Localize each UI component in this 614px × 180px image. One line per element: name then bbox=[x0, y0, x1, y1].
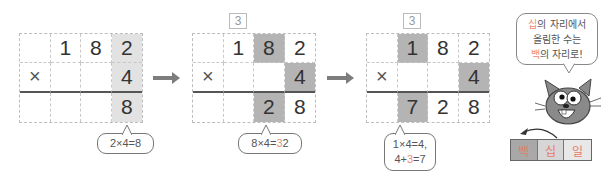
cell bbox=[428, 63, 459, 92]
cell: 1 bbox=[51, 34, 82, 63]
cell bbox=[81, 93, 112, 122]
cell-highlighted: 1 bbox=[398, 34, 429, 63]
multiply-sign: × bbox=[20, 63, 51, 92]
bubble-tail-icon bbox=[122, 125, 132, 135]
place-value-tens: 십 bbox=[538, 140, 565, 160]
speech-line-1: 십의 자리에서 bbox=[517, 17, 597, 32]
speech-tail-icon bbox=[563, 63, 575, 74]
cell-highlighted: 4 bbox=[285, 63, 316, 92]
carry-box: 3 bbox=[403, 13, 421, 29]
step1-explanation-bubble: 2×4=8 bbox=[97, 133, 154, 154]
cell bbox=[51, 63, 82, 92]
cell: 2 bbox=[459, 34, 490, 63]
cat-speech-bubble: 십의 자리에서 올림한 수는 백의 자리로! bbox=[516, 13, 598, 65]
right-arrow-icon bbox=[327, 76, 347, 80]
multiply-sign: × bbox=[367, 63, 398, 92]
cell: 8 bbox=[285, 93, 316, 122]
speech-line-3: 백의 자리로! bbox=[517, 47, 597, 62]
bubble-tail-icon bbox=[395, 125, 405, 135]
step3-explanation-bubble: 1×4=4, 4+3=7 bbox=[384, 133, 436, 171]
cell bbox=[51, 93, 82, 122]
cell bbox=[193, 34, 224, 63]
multiply-sign: × bbox=[193, 63, 224, 92]
cell-highlighted: 4 bbox=[459, 63, 490, 92]
cell bbox=[398, 63, 429, 92]
equation-text: 2×4=8 bbox=[110, 137, 141, 149]
cell-highlighted: 8 bbox=[112, 93, 143, 122]
step3-grid: 1 8 2 × 4 7 2 8 bbox=[366, 33, 490, 123]
cell: 1 bbox=[224, 34, 255, 63]
cell: 8 bbox=[459, 93, 490, 122]
cell: 2 bbox=[285, 34, 316, 63]
equation-text: 2 bbox=[283, 137, 289, 149]
place-value-chart: 백 십 일 bbox=[510, 139, 592, 161]
equation-text: 8×4= bbox=[251, 137, 276, 149]
cell bbox=[224, 63, 255, 92]
right-arrow-icon bbox=[153, 76, 173, 80]
cell bbox=[193, 93, 224, 122]
cell-highlighted: 8 bbox=[254, 34, 285, 63]
cell bbox=[20, 34, 51, 63]
place-value-hundreds: 백 bbox=[511, 140, 538, 160]
curved-arrow-left-icon bbox=[512, 124, 562, 140]
carry-box: 3 bbox=[229, 13, 247, 29]
speech-line-2: 올림한 수는 bbox=[517, 32, 597, 47]
equation-line-1: 1×4=4, bbox=[391, 137, 429, 152]
cat-mascot-icon bbox=[535, 76, 603, 130]
step1-grid: 1 8 2 × 4 8 bbox=[19, 33, 143, 123]
cell-highlighted: 2 bbox=[254, 93, 285, 122]
cell bbox=[254, 63, 285, 92]
cell: 8 bbox=[428, 34, 459, 63]
bubble-tail-icon bbox=[261, 125, 271, 135]
cell-highlighted: 4 bbox=[112, 63, 143, 92]
cell bbox=[367, 93, 398, 122]
place-value-ones: 일 bbox=[564, 140, 591, 160]
cell bbox=[81, 63, 112, 92]
cell bbox=[367, 34, 398, 63]
step2-explanation-bubble: 8×4=32 bbox=[238, 133, 302, 154]
equation-line-2: 4+3=7 bbox=[391, 152, 429, 167]
cell bbox=[20, 93, 51, 122]
step2-grid: 1 8 2 × 4 2 8 bbox=[192, 33, 316, 123]
cell: 8 bbox=[81, 34, 112, 63]
cell: 2 bbox=[428, 93, 459, 122]
cell-highlighted: 7 bbox=[398, 93, 429, 122]
cell-highlighted: 2 bbox=[112, 34, 143, 63]
cell bbox=[224, 93, 255, 122]
